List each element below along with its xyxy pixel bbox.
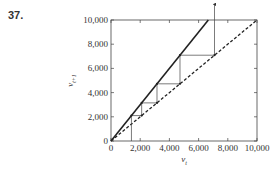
x-tick-label: 8,000: [218, 143, 239, 153]
y-tick-label: 10,000: [83, 15, 108, 25]
y-tick-label: 8,000: [88, 39, 109, 49]
cobweb-point: [141, 114, 143, 116]
cobweb-point: [156, 102, 158, 104]
cobweb-point: [130, 114, 132, 116]
x-axis-label: vt: [181, 154, 187, 166]
cobweb-point: [141, 102, 143, 104]
y-tick-label: 2,000: [88, 112, 109, 122]
y-tick-label: 4,000: [88, 88, 109, 98]
cobweb-chart: 02,0004,0006,0008,00010,00002,0004,0006,…: [0, 0, 280, 169]
updating-function-line: [111, 20, 208, 141]
x-tick-label: 10,000: [245, 143, 270, 153]
cobweb-point: [179, 83, 181, 85]
diagonal-line: [111, 20, 257, 141]
y-tick-label: 0: [104, 136, 109, 146]
x-tick-label: 2,000: [130, 143, 151, 153]
cobweb-path: [131, 4, 214, 141]
cobweb-point: [179, 54, 181, 56]
y-tick-label: 6,000: [88, 63, 109, 73]
x-tick-label: 4,000: [159, 143, 180, 153]
plot-lines: [111, 4, 257, 141]
x-tick-label: 0: [109, 143, 114, 153]
cobweb-point: [156, 83, 158, 85]
y-axis-label: vt+1: [65, 74, 77, 87]
cobweb-point: [213, 54, 215, 56]
x-tick-label: 6,000: [188, 143, 209, 153]
